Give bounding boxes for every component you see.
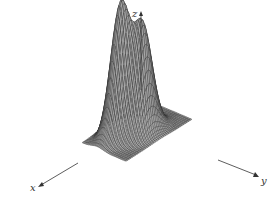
y-axis-line <box>218 160 256 175</box>
surface-mesh <box>82 0 192 161</box>
z-axis-arrowhead-icon <box>139 11 143 16</box>
x-axis-arrowhead-icon <box>38 182 44 187</box>
z-axis-label: z <box>131 8 138 19</box>
y-axis-label: y <box>260 175 267 186</box>
x-axis-line <box>41 163 78 185</box>
x-axis-label: x <box>30 182 36 193</box>
surface-plot: z x y <box>0 0 279 200</box>
